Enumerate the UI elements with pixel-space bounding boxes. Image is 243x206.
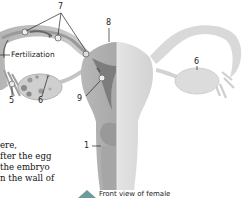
label-9: 9	[77, 95, 82, 103]
released-egg	[9, 81, 15, 87]
right-ovary	[175, 68, 219, 94]
label-7: 7	[58, 3, 63, 11]
follicle	[28, 78, 33, 83]
label-1: 1	[84, 142, 89, 150]
label-fertilization: Fertilization	[11, 51, 55, 59]
label-6-left: 6	[38, 97, 43, 105]
label-8: 8	[106, 19, 111, 27]
embryo	[83, 51, 89, 57]
zygote	[55, 35, 61, 41]
arrow-up-icon	[78, 190, 96, 198]
implanting-embryo	[99, 75, 105, 81]
ovarian-ligament-left	[60, 70, 84, 82]
egg	[22, 29, 28, 35]
label-5: 5	[9, 97, 14, 105]
figure-caption: Front view of female	[78, 190, 170, 198]
follicle	[26, 91, 31, 96]
label-6-right: 6	[194, 58, 199, 66]
uterus-outer-half	[117, 42, 153, 190]
text-line: fter the egg	[0, 151, 54, 162]
text-line: the embryo	[0, 162, 54, 173]
follicle	[21, 85, 27, 91]
vagina	[101, 146, 116, 190]
text-line: n the wall of	[0, 173, 54, 184]
follicle	[35, 75, 39, 79]
text-line: ere,	[0, 140, 54, 151]
follicle	[49, 88, 52, 91]
body-text: ere, fter the egg the embryo n the wall …	[0, 140, 54, 184]
caption-text: Front view of female	[99, 190, 170, 198]
